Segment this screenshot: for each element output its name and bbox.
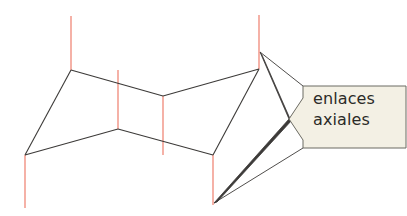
- ring-bond-c6-c1: [25, 70, 71, 155]
- callout-label-line-1: enlaces: [313, 88, 405, 109]
- axial-bonds-group: [25, 15, 259, 208]
- callout-leader-lines: [214, 52, 292, 203]
- cyclohexane-ring-skeleton: [25, 69, 259, 155]
- ring-bond-c2-c3: [163, 69, 259, 96]
- figure-canvas: enlaces axiales: [0, 0, 407, 216]
- ring-bond-c4-c5: [118, 129, 213, 155]
- callout-label: enlaces axiales: [313, 88, 405, 130]
- ring-bond-c1-c2: [71, 70, 163, 96]
- callout-label-line-2: axiales: [313, 109, 405, 130]
- ring-bond-c5-c6: [25, 129, 118, 155]
- leader-to-top-axial-icon: [260, 52, 291, 121]
- ring-bond-c3-c4: [213, 69, 259, 155]
